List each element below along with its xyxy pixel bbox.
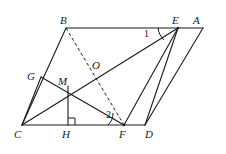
segment-B-F-dashed [66,28,124,125]
point-label-O: O [92,60,100,71]
point-label-M: M [58,76,67,87]
point-label-E: E [172,15,179,26]
point-label-G: G [27,71,35,82]
segment-G-F [41,77,124,125]
right-angle-mark-H [68,118,75,125]
point-label-A: A [193,15,200,26]
segment-E-D [145,28,178,125]
segment-E-F [124,28,178,125]
vertex-dot-E [177,27,180,30]
point-label-C: C [14,129,21,140]
point-label-H: H [62,129,70,140]
geometry-figure: A B C D E F G H M O 1 2 [0,0,226,154]
vertex-dot-F [123,124,126,127]
segment-C-G [22,77,41,125]
angle-label-2: 2 [106,110,111,120]
segment-C-E [22,28,178,125]
angle-label-1: 1 [144,29,149,39]
point-label-F: F [119,129,126,140]
point-label-D: D [145,129,153,140]
point-label-B: B [60,15,67,26]
